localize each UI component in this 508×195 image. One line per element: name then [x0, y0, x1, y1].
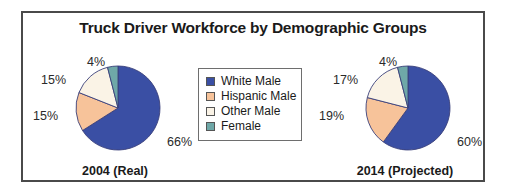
slice-label-female-2004: 4%: [87, 55, 105, 69]
legend-swatch-icon-female: [206, 122, 215, 131]
slice-label-hispanic-male-2004: 15%: [33, 109, 58, 123]
slice-label-hispanic-male-2014: 19%: [319, 109, 344, 123]
legend-swatch-icon-hispanic-male: [206, 92, 215, 101]
legend-label-other-male: Other Male: [221, 105, 280, 118]
legend-label-female: Female: [221, 120, 261, 133]
slice-label-other-male-2004: 15%: [41, 73, 66, 87]
pie-svg-2014: [364, 64, 452, 152]
slice-label-other-male-2014: 17%: [333, 73, 358, 87]
pie-caption-2014: 2014 (Projected): [317, 164, 493, 178]
legend-item-white-male: White Male: [206, 74, 294, 89]
pie-chart-2004: 66% 15% 15% 4% 2004 (Real): [27, 58, 203, 178]
pie-caption-2004: 2004 (Real): [27, 164, 203, 178]
legend-item-other-male: Other Male: [206, 104, 294, 119]
legend-item-female: Female: [206, 119, 294, 134]
chart-title: Truck Driver Workforce by Demographic Gr…: [23, 19, 483, 37]
pie-chart-2014: 60% 19% 17% 4% 2014 (Projected): [317, 58, 493, 178]
slice-label-white-male-2014: 60%: [457, 135, 482, 149]
chart-frame: Truck Driver Workforce by Demographic Gr…: [21, 11, 485, 182]
legend-swatch-icon-white-male: [206, 77, 215, 86]
chart-legend: White Male Hispanic Male Other Male Fema…: [198, 68, 302, 141]
pie-svg-2004: [74, 64, 162, 152]
legend-label-white-male: White Male: [221, 75, 281, 88]
legend-swatch-icon-other-male: [206, 107, 215, 116]
slice-label-female-2014: 4%: [379, 55, 397, 69]
legend-item-hispanic-male: Hispanic Male: [206, 89, 294, 104]
legend-label-hispanic-male: Hispanic Male: [221, 90, 296, 103]
slice-label-white-male-2004: 66%: [167, 135, 192, 149]
